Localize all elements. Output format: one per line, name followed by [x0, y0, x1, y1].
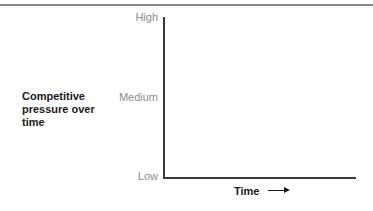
y-tick-high: High	[98, 11, 158, 23]
x-axis-title: Time	[234, 185, 290, 197]
y-axis-title: Competitive pressure over time	[22, 90, 102, 129]
y-axis	[163, 17, 165, 179]
x-axis	[163, 177, 356, 179]
y-tick-low: Low	[98, 170, 158, 182]
top-rule	[0, 4, 373, 6]
x-axis-title-text: Time	[234, 185, 259, 197]
y-tick-medium: Medium	[98, 91, 158, 103]
arrow-right-icon	[268, 187, 290, 195]
